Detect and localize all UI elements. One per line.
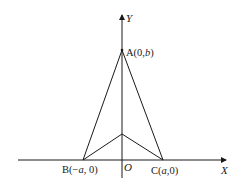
segment-bp: [83, 134, 122, 160]
point-b-label: B(−a, 0): [62, 164, 98, 176]
x-axis-label: X: [220, 164, 229, 176]
segment-ac: [122, 50, 163, 160]
point-a-dot: [121, 49, 124, 52]
origin-label: O: [124, 161, 132, 173]
segment-ab: [83, 50, 122, 160]
point-c-label: C(a,0): [151, 165, 179, 177]
segment-cp: [122, 134, 163, 160]
point-a-label: A(0,b): [126, 47, 154, 59]
coordinate-diagram: Y X O A(0,b) B(−a, 0) C(a,0): [0, 0, 242, 187]
y-axis-label: Y: [126, 12, 134, 24]
